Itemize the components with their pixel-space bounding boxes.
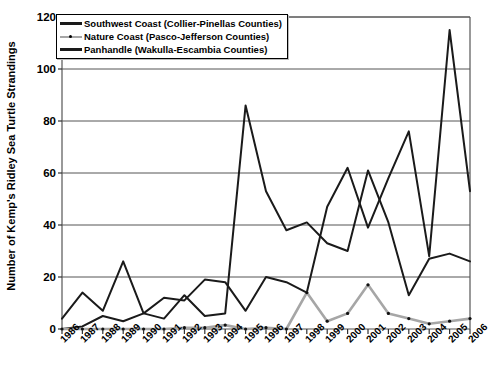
legend-label-nature-coast: Nature Coast (Pasco-Jefferson Counties) xyxy=(84,30,269,43)
series-marker xyxy=(346,312,349,315)
legend-label-southwest-coast: Southwest Coast (Collier-Pinellas Counti… xyxy=(84,17,282,30)
series-marker xyxy=(305,291,308,294)
series-marker xyxy=(468,317,471,320)
y-tick-label: 60 xyxy=(26,167,56,179)
series-marker xyxy=(428,322,431,325)
legend-swatch-nature-coast xyxy=(60,31,82,43)
series-marker xyxy=(326,320,329,323)
series-marker xyxy=(224,324,227,327)
series-line-1 xyxy=(62,285,470,329)
y-tick-label: 80 xyxy=(26,115,56,127)
series-marker xyxy=(366,283,369,286)
legend-item-nature-coast: Nature Coast (Pasco-Jefferson Counties) xyxy=(60,30,282,43)
chart-legend: Southwest Coast (Collier-Pinellas Counti… xyxy=(56,14,288,59)
legend-swatch-panhandle xyxy=(60,44,82,56)
legend-item-southwest-coast: Southwest Coast (Collier-Pinellas Counti… xyxy=(60,17,282,30)
y-tick-label: 120 xyxy=(26,11,56,23)
legend-item-panhandle: Panhandle (Wakulla-Escambia Counties) xyxy=(60,43,282,56)
y-axis-title-area: Number of Kemp's Ridley Sea Turtle Stran… xyxy=(0,0,22,340)
y-tick-label: 100 xyxy=(26,63,56,75)
y-tick-label: 20 xyxy=(26,271,56,283)
y-tick-label: 0 xyxy=(26,323,56,335)
y-tick-label: 40 xyxy=(26,219,56,231)
series-line-0 xyxy=(62,30,470,329)
series-marker xyxy=(407,317,410,320)
y-axis-tick-labels: 020406080100120 xyxy=(24,0,56,368)
legend-label-panhandle: Panhandle (Wakulla-Escambia Counties) xyxy=(84,43,267,56)
series-marker xyxy=(448,320,451,323)
y-axis-title: Number of Kemp's Ridley Sea Turtle Stran… xyxy=(5,36,17,296)
legend-swatch-southwest-coast xyxy=(60,18,82,30)
series-marker xyxy=(387,312,390,315)
